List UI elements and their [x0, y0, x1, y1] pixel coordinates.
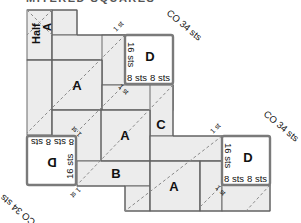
d-box-left-bottom-left: 8 sts	[54, 137, 74, 148]
d-box-top: D 16 sts 8 sts 8 sts CO 34 sts	[125, 7, 204, 84]
right-band	[150, 136, 222, 161]
d-box-left-bottom-right: 8 sts	[31, 137, 51, 148]
d-box-left-cast-on: CO 34 sts	[0, 192, 37, 223]
top-band-lower	[102, 35, 125, 85]
stitch-marker-5: 1 st	[209, 122, 222, 135]
stitch-marker-1: 1 st	[112, 20, 125, 33]
d-box-top-label: D	[145, 49, 154, 64]
d-box-top-side: 16 sts	[126, 42, 137, 68]
d-box-right-side: 16 sts	[223, 143, 234, 169]
d-box-left-side: 16 sts	[64, 153, 75, 179]
c-label: C	[156, 117, 166, 132]
d-box-top-bottom-left: 8 sts	[127, 72, 147, 83]
d-box-right-bottom-right: 8 sts	[247, 173, 267, 184]
a-bottom-label: A	[169, 179, 179, 194]
stitch-marker-4: 1 st	[69, 186, 82, 199]
a-top-label: A	[72, 78, 82, 93]
d-box-right-label: D	[243, 150, 252, 165]
d-box-right-bottom-left: 8 sts	[224, 173, 244, 184]
mitered-squares-diagram: D 16 sts 8 sts 8 sts CO 34 sts D 16 sts …	[0, 0, 301, 223]
b-label: B	[111, 166, 120, 181]
left-column	[27, 60, 52, 135]
under-right-d	[222, 185, 270, 211]
bottom-left-strip	[125, 186, 150, 211]
d-box-left-label: D	[47, 155, 56, 170]
a-middle-label: A	[120, 128, 130, 143]
half-a-right-strip	[52, 10, 77, 35]
d-box-top-bottom-right: 8 sts	[150, 72, 170, 83]
d-box-right: D 16 sts 8 sts 8 sts CO 34 sts	[222, 108, 301, 185]
half-a-label-line2: A	[41, 23, 53, 31]
d-box-left: D 16 sts 8 sts 8 sts CO 34 sts	[0, 136, 76, 223]
